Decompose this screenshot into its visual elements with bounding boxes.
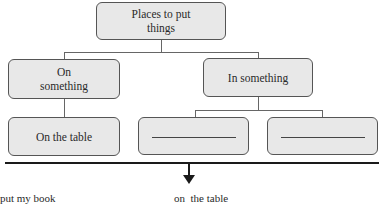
leaf-label: On the table — [36, 130, 92, 144]
category-node-on-something: On something — [8, 59, 120, 99]
leaf-node-blank-2[interactable] — [267, 117, 378, 155]
down-arrow-icon — [182, 163, 196, 185]
sentence-left: put my book — [0, 192, 56, 204]
sentence-right: on the table — [174, 192, 228, 204]
root-node-label-line1: Places to put — [132, 7, 191, 21]
category-label-line2: something — [40, 79, 88, 93]
connector-in-horizontal — [195, 110, 323, 111]
category-label: In something — [228, 71, 288, 85]
answer-blank-line[interactable] — [152, 137, 236, 138]
category-node-in-something: In something — [203, 58, 313, 97]
connector-in-down — [258, 97, 259, 110]
connector-on-to-table — [64, 99, 65, 117]
connector-to-blank-2 — [322, 110, 323, 117]
connector-to-blank-1 — [195, 110, 196, 117]
connector-root-horizontal — [64, 52, 259, 53]
root-node-label-line2: things — [147, 21, 175, 35]
leaf-node-on-the-table: On the table — [8, 117, 120, 156]
category-label-line1: On — [57, 65, 71, 79]
answer-blank-line[interactable] — [281, 137, 365, 138]
connector-to-on-something — [64, 52, 65, 59]
root-node: Places to put things — [96, 2, 226, 40]
leaf-node-blank-1[interactable] — [138, 117, 249, 155]
